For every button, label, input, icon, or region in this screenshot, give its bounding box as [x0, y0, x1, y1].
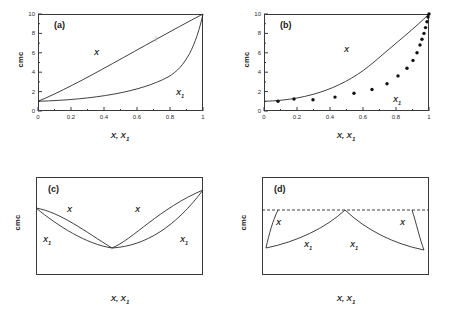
panel-d: (d) X X1 X1 X cmc X, X1: [226, 160, 451, 318]
panel-a-tag: (a): [54, 20, 65, 30]
panel-b-xtick-1: 1: [427, 114, 430, 120]
panel-a-xtick-0: 0: [36, 114, 39, 120]
panel-b-ytick-8: 8: [248, 30, 261, 36]
panel-a-xtick-02: 0.2: [67, 114, 75, 120]
panel-b-label-x: X: [344, 45, 349, 54]
panel-c-label-x1-left: X1: [43, 235, 51, 246]
panel-a-xtick-1: 1: [201, 114, 204, 120]
panel-b-ytick-0: 0: [248, 108, 261, 114]
panel-d-label-x1-left: X1: [304, 240, 312, 251]
panel-b-ytick-4: 4: [248, 69, 261, 75]
panel-d-y-axis-label: cmc: [239, 208, 248, 238]
panel-b-xtick-02: 0.2: [293, 114, 301, 120]
panel-a-label-x: X: [94, 48, 99, 57]
panel-c-label-x-left: X: [67, 205, 72, 214]
panel-b-xtick-04: 0.4: [326, 114, 334, 120]
figure-panel-grid: (a) X X1 cmc 0 2 4 6 8 10 0 0.2 0.4 0.6 …: [0, 0, 451, 318]
panel-b-xtick-0: 0: [262, 114, 265, 120]
panel-a-xtick-04: 0.4: [100, 114, 108, 120]
panel-d-x-axis-label: X, X1: [296, 294, 396, 305]
panel-b-ytick-6: 6: [248, 50, 261, 56]
panel-d-tag: (d): [274, 184, 286, 194]
panel-c-y-axis-label: cmc: [13, 208, 22, 238]
panel-a-xtick-08: 0.8: [166, 114, 174, 120]
panel-a: (a) X X1 cmc 0 2 4 6 8 10 0 0.2 0.4 0.6 …: [0, 0, 226, 160]
panel-a-ytick-4: 4: [22, 69, 35, 75]
panel-c-tag: (c): [48, 184, 59, 194]
panel-b-tag: (b): [280, 20, 292, 30]
panel-a-ytick-8: 8: [22, 30, 35, 36]
panel-a-x-axis-label: X, X1: [70, 131, 170, 142]
panel-a-xtick-06: 0.6: [133, 114, 141, 120]
panel-b: (b) X X1 cmc 0 2 4 6 8 10 0 0.2 0.4 0.6 …: [226, 0, 451, 160]
panel-b-ytick-10: 10: [248, 11, 261, 17]
panel-d-label-x-right: X: [400, 218, 405, 227]
panel-a-label-x1: X1: [176, 88, 184, 99]
panel-b-label-x1: X1: [393, 95, 401, 106]
panel-c-label-x1-right: X1: [180, 235, 188, 246]
panel-d-label-x1-right: X1: [350, 240, 358, 251]
panel-b-xtick-06: 0.6: [359, 114, 367, 120]
panel-d-label-x-left: X: [276, 218, 281, 227]
panel-a-ytick-10: 10: [22, 11, 35, 17]
panel-a-ytick-0: 0: [22, 108, 35, 114]
panel-b-ytick-2: 2: [248, 89, 261, 95]
panel-b-xtick-08: 0.8: [392, 114, 400, 120]
panel-c-label-x-right: X: [135, 205, 140, 214]
panel-a-ytick-6: 6: [22, 50, 35, 56]
panel-a-ytick-2: 2: [22, 89, 35, 95]
panel-c: (c) X X1 X X1 cmc X, X1: [0, 160, 226, 318]
panel-b-x-axis-label: X, X1: [296, 131, 396, 142]
panel-c-x-axis-label: X, X1: [70, 294, 170, 305]
